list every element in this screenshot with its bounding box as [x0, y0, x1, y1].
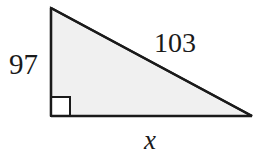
right-angle-square-fill	[52, 98, 69, 115]
label-vertical-leg: 97	[9, 50, 38, 79]
label-hypotenuse: 103	[154, 29, 196, 57]
label-horizontal-leg: x	[144, 127, 156, 154]
right-triangle-graphic	[0, 0, 268, 159]
figure-canvas: 97 103 x	[0, 0, 268, 159]
